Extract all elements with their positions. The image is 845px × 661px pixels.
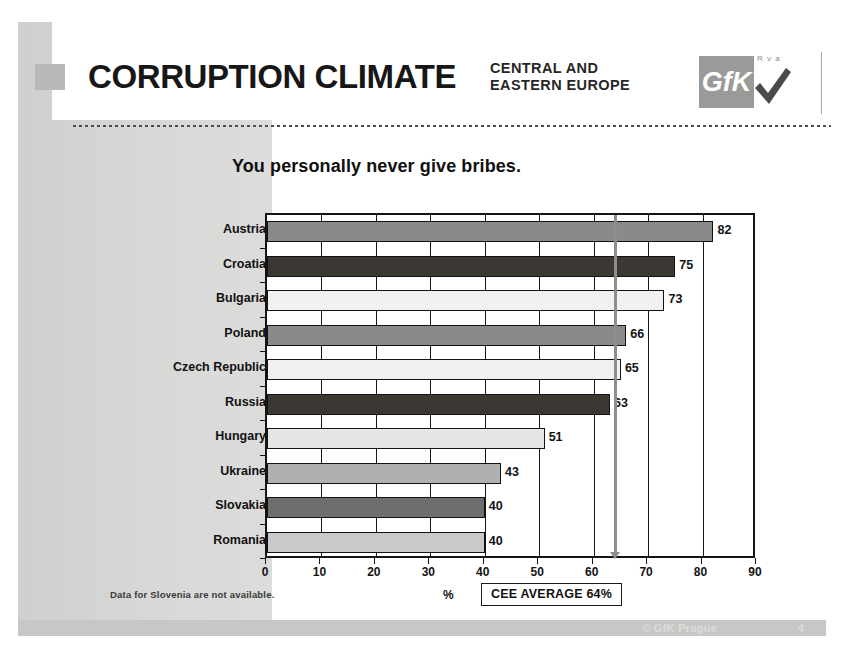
chart-x-tick-label: 40 <box>476 565 489 579</box>
chart-x-tick-label: 60 <box>585 565 598 579</box>
chart-x-tick-label: 10 <box>313 565 326 579</box>
chart-bar-row: 82 <box>267 215 753 250</box>
chart-category-label: Romania <box>213 533 266 547</box>
chart-x-tick <box>483 558 484 564</box>
chart-category-label: Russia <box>225 395 266 409</box>
chart-y-tick <box>260 489 265 490</box>
chart-bar-row: 65 <box>267 353 753 388</box>
average-vline <box>614 215 617 556</box>
chart-bar-row: 43 <box>267 457 753 492</box>
chart-x-tick-label: 70 <box>639 565 652 579</box>
chart-x-tick-label: 50 <box>531 565 544 579</box>
chart-title: You personally never give bribes. <box>232 156 521 177</box>
copyright-text: © GfK Prague <box>642 622 717 634</box>
chart-bar[interactable] <box>267 325 626 346</box>
chart-bars-container: 82757366656351434040 <box>267 215 753 556</box>
chart-y-tick <box>260 282 265 283</box>
header-accent-square <box>35 64 65 90</box>
chart-category-label: Hungary <box>215 429 266 443</box>
chart-bar[interactable] <box>267 497 485 518</box>
chart-category-label: Czech Republic <box>173 360 266 374</box>
header-dotted-rule <box>73 125 831 127</box>
checkmark-icon <box>753 66 793 108</box>
chart-bar[interactable] <box>267 221 713 242</box>
chart-x-tick <box>755 558 756 564</box>
chart-bar-value: 75 <box>679 258 693 272</box>
bar-chart: 82757366656351434040 AustriaCroatiaBulga… <box>130 213 770 563</box>
chart-bar-value: 43 <box>505 465 519 479</box>
average-marker-icon <box>610 552 620 559</box>
chart-bar-row: 40 <box>267 526 753 561</box>
chart-category-label: Poland <box>224 326 266 340</box>
chart-bar-value: 66 <box>630 327 644 341</box>
chart-category-label: Austria <box>223 222 266 236</box>
chart-bar-row: 75 <box>267 250 753 285</box>
chart-bar-row: 63 <box>267 388 753 423</box>
chart-category-label: Ukraine <box>220 464 266 478</box>
chart-unit-label: % <box>443 588 454 602</box>
chart-y-tick <box>260 386 265 387</box>
chart-x-tick <box>265 558 266 564</box>
chart-bar[interactable] <box>267 532 485 553</box>
chart-y-tick <box>260 248 265 249</box>
chart-x-tick <box>319 558 320 564</box>
chart-footnote: Data for Slovenia are not available. <box>110 589 275 600</box>
chart-x-tick-label: 0 <box>262 565 269 579</box>
chart-bar[interactable] <box>267 463 501 484</box>
chart-x-tick-label: 20 <box>367 565 380 579</box>
chart-y-tick <box>260 317 265 318</box>
gfk-logo-superscript: R v a <box>757 54 781 63</box>
chart-x-tick-label: 30 <box>422 565 435 579</box>
gfk-logo-text: GfK <box>699 56 754 108</box>
cee-average-badge: CEE AVERAGE 64% <box>481 583 622 606</box>
chart-x-tick <box>428 558 429 564</box>
chart-bar-value: 40 <box>489 534 503 548</box>
chart-bar[interactable] <box>267 359 621 380</box>
chart-y-tick <box>260 455 265 456</box>
header-divider <box>821 52 822 114</box>
chart-x-tick <box>537 558 538 564</box>
chart-bar-value: 51 <box>549 430 563 444</box>
chart-bar-row: 73 <box>267 284 753 319</box>
chart-bar-value: 65 <box>625 361 639 375</box>
slide-header: CORRUPTION CLIMATE CENTRAL AND EASTERN E… <box>18 22 826 122</box>
page-title: CORRUPTION CLIMATE <box>88 58 456 96</box>
chart-bar[interactable] <box>267 290 664 311</box>
chart-bar-row: 66 <box>267 319 753 354</box>
chart-bar[interactable] <box>267 428 545 449</box>
chart-bar-value: 82 <box>717 223 731 237</box>
chart-bar-value: 73 <box>668 292 682 306</box>
chart-plot-area: 82757366656351434040 <box>265 213 755 558</box>
chart-category-label: Croatia <box>223 257 266 271</box>
chart-x-tick-label: 80 <box>694 565 707 579</box>
chart-bar-value: 40 <box>489 499 503 513</box>
chart-bar[interactable] <box>267 394 610 415</box>
chart-bar-row: 51 <box>267 422 753 457</box>
chart-x-tick-label: 90 <box>748 565 761 579</box>
slide: CORRUPTION CLIMATE CENTRAL AND EASTERN E… <box>0 0 845 661</box>
chart-x-tick <box>701 558 702 564</box>
page-number: 4 <box>798 622 804 634</box>
chart-x-tick <box>646 558 647 564</box>
chart-x-tick <box>374 558 375 564</box>
gfk-logo: GfK R v a <box>681 50 831 118</box>
chart-y-tick <box>260 420 265 421</box>
chart-bar-row: 40 <box>267 491 753 526</box>
chart-y-tick <box>260 524 265 525</box>
page-subtitle: CENTRAL AND EASTERN EUROPE <box>490 60 630 94</box>
gfk-logo-box: GfK <box>699 56 754 108</box>
chart-category-label: Bulgaria <box>216 291 266 305</box>
chart-y-tick <box>260 351 265 352</box>
chart-x-tick <box>592 558 593 564</box>
chart-category-label: Slovakia <box>215 498 266 512</box>
